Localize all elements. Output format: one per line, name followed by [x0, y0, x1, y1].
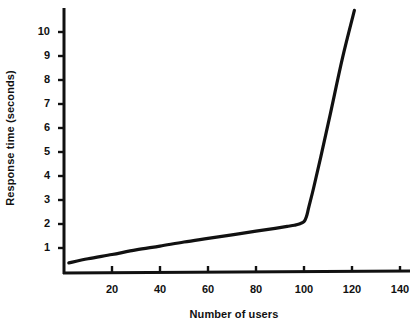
y-tick-label: 8	[28, 73, 50, 85]
x-tick-label: 100	[289, 283, 319, 295]
y-tick-label: 6	[28, 121, 50, 133]
y-tick-label: 9	[28, 49, 50, 61]
response-time-chart: Response time (seconds) Number of users …	[0, 0, 419, 332]
y-tick-label: 10	[28, 25, 50, 37]
y-tick-label: 2	[28, 217, 50, 229]
x-axis-line	[63, 271, 410, 273]
y-tick-label: 1	[28, 241, 50, 253]
y-tick-label: 4	[28, 169, 50, 181]
y-tick-label: 3	[28, 193, 50, 205]
y-tick-label: 5	[28, 145, 50, 157]
x-tick-label: 20	[97, 283, 127, 295]
x-tick-label: 60	[193, 283, 223, 295]
x-tick-label: 40	[145, 283, 175, 295]
x-tick-label: 80	[241, 283, 271, 295]
x-tick-label: 140	[385, 283, 415, 295]
x-tick-label: 120	[337, 283, 367, 295]
data-series-line	[69, 10, 355, 262]
y-tick-label: 7	[28, 97, 50, 109]
